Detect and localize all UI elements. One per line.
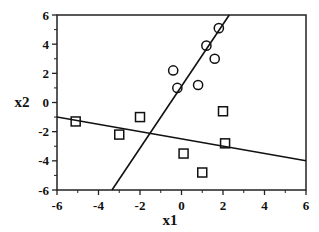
circle-marker (169, 66, 178, 75)
y-tick-label: -2 (38, 124, 49, 139)
y-tick-label: 6 (43, 8, 50, 23)
axis-ticks (52, 15, 306, 195)
shallow-boundary-line (57, 117, 306, 161)
x-tick-label: -4 (93, 198, 104, 213)
x-tick-label: -6 (52, 198, 63, 213)
data-markers (71, 24, 229, 177)
steep-boundary-line (112, 15, 229, 190)
circle-marker (210, 54, 219, 63)
square-marker (136, 113, 145, 122)
y-tick-label: 0 (43, 95, 50, 110)
x-tick-label: 6 (303, 198, 310, 213)
x-tick-label: 4 (261, 198, 268, 213)
x-tick-label: 0 (178, 198, 185, 213)
y-tick-label: -6 (38, 183, 49, 198)
y-axis-label: x2 (15, 94, 30, 110)
y-tick-label: 2 (43, 66, 50, 81)
y-tick-label: -4 (38, 153, 49, 168)
x-tick-label: -2 (135, 198, 146, 213)
square-marker (179, 149, 188, 158)
scatter-chart: -6-4-20246-6-4-20246 x1 x2 (0, 0, 319, 232)
square-marker (198, 168, 207, 177)
x-axis-label: x1 (163, 212, 178, 228)
y-tick-label: 4 (43, 37, 50, 52)
boundary-lines (57, 15, 306, 190)
square-marker (115, 130, 124, 139)
x-tick-label: 2 (220, 198, 227, 213)
plot-area-frame (57, 15, 306, 190)
tick-labels: -6-4-20246-6-4-20246 (38, 8, 310, 214)
circle-marker (194, 80, 203, 89)
square-marker (219, 107, 228, 116)
